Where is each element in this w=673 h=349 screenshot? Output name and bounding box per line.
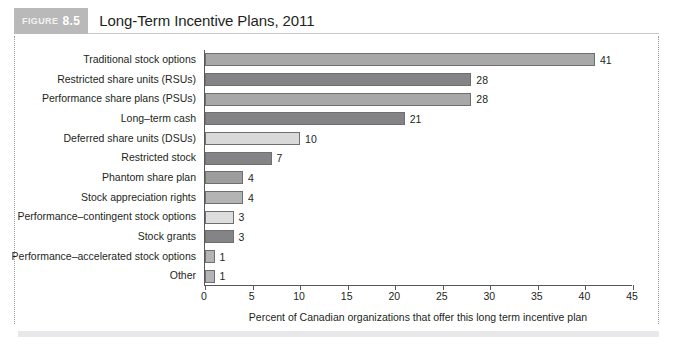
bar-value-label: 1 bbox=[220, 252, 226, 263]
bar-value-label: 3 bbox=[239, 232, 245, 243]
bar-chart: Traditional stock optionsRestricted shar… bbox=[24, 50, 644, 325]
x-axis-tick-label: 5 bbox=[249, 290, 255, 302]
bar bbox=[205, 93, 471, 106]
bar-value-label: 7 bbox=[277, 153, 283, 164]
y-axis-label: Stock appreciation rights bbox=[81, 192, 196, 203]
y-axis-label: Performance share plans (PSUs) bbox=[42, 93, 196, 104]
bar bbox=[205, 171, 243, 184]
bar-value-label: 28 bbox=[476, 94, 488, 105]
y-axis-label: Traditional stock options bbox=[83, 54, 196, 65]
x-axis-tick-label: 45 bbox=[626, 290, 638, 302]
bars-container: 41282821107443311 bbox=[205, 50, 632, 285]
x-axis-tick-label: 15 bbox=[341, 290, 353, 302]
y-axis-label: Other bbox=[170, 270, 196, 281]
y-axis-label: Phantom share plan bbox=[102, 172, 196, 183]
bar bbox=[205, 211, 234, 224]
figure-tag: FIGURE 8.5 bbox=[14, 8, 88, 34]
x-axis-tick-label: 0 bbox=[201, 290, 207, 302]
figure-header: FIGURE 8.5 Long-Term Incentive Plans, 20… bbox=[14, 8, 659, 34]
plot-wrapper: Traditional stock optionsRestricted shar… bbox=[24, 50, 644, 290]
x-axis-tick-label: 20 bbox=[388, 290, 400, 302]
bar bbox=[205, 53, 595, 66]
figure-tag-word: FIGURE bbox=[22, 16, 58, 26]
bar bbox=[205, 250, 215, 263]
y-axis-label: Performance–accelerated stock options bbox=[12, 251, 196, 262]
figure-tag-number: 8.5 bbox=[62, 14, 80, 28]
figure-container: FIGURE 8.5 Long-Term Incentive Plans, 20… bbox=[0, 0, 673, 349]
bar-value-label: 4 bbox=[248, 193, 254, 204]
bar bbox=[205, 112, 405, 125]
y-axis-label: Performance–contingent stock options bbox=[17, 211, 196, 222]
bar-value-label: 28 bbox=[476, 75, 488, 86]
bar bbox=[205, 230, 234, 243]
bar bbox=[205, 270, 215, 283]
x-axis-tick-label: 30 bbox=[483, 290, 495, 302]
bar-value-label: 3 bbox=[239, 212, 245, 223]
bar bbox=[205, 73, 471, 86]
y-axis-label: Long–term cash bbox=[121, 113, 196, 124]
x-axis-tick-label: 25 bbox=[436, 290, 448, 302]
bar-value-label: 10 bbox=[305, 134, 317, 145]
x-axis-tick-label: 10 bbox=[293, 290, 305, 302]
x-axis-title: Percent of Canadian organizations that o… bbox=[204, 311, 632, 323]
figure-title: Long-Term Incentive Plans, 2011 bbox=[88, 8, 659, 34]
x-axis-tick-label: 35 bbox=[531, 290, 543, 302]
bar bbox=[205, 191, 243, 204]
y-axis-label: Restricted share units (RSUs) bbox=[57, 74, 196, 85]
bar bbox=[205, 152, 272, 165]
plot-area: 41282821107443311 bbox=[204, 50, 632, 286]
bar-value-label: 41 bbox=[600, 55, 612, 66]
bar bbox=[205, 132, 300, 145]
y-axis-labels: Traditional stock optionsRestricted shar… bbox=[24, 50, 201, 286]
y-axis-label: Restricted stock bbox=[121, 152, 196, 163]
y-axis-label: Deferred share units (DSUs) bbox=[64, 133, 196, 144]
bar-value-label: 1 bbox=[220, 271, 226, 282]
bar-value-label: 4 bbox=[248, 173, 254, 184]
bar-value-label: 21 bbox=[410, 114, 422, 125]
x-axis-tick-label: 40 bbox=[579, 290, 591, 302]
bottom-rule bbox=[18, 331, 659, 337]
y-axis-label: Stock grants bbox=[138, 231, 196, 242]
